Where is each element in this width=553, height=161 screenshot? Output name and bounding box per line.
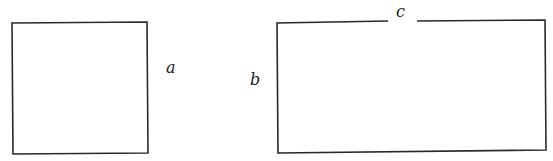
rectangle-label-b: b: [250, 70, 260, 89]
rectangle-label-c: c: [396, 2, 405, 21]
square-shape: [12, 22, 148, 154]
rectangle-shape: [277, 20, 546, 153]
diagram-canvas: a b c: [0, 0, 553, 161]
square-label-a: a: [166, 58, 176, 77]
